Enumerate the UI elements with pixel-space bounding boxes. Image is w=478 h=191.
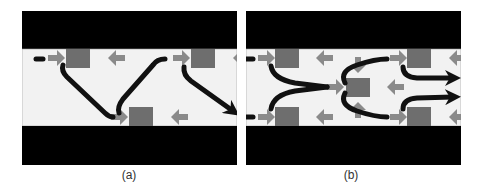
block: [275, 107, 299, 126]
block: [407, 49, 431, 68]
block: [407, 107, 431, 126]
block: [129, 107, 153, 126]
top-wall: [246, 11, 461, 49]
panel-b: [246, 11, 461, 165]
block: [275, 49, 299, 68]
block: [191, 49, 215, 68]
panel-a: [22, 11, 237, 165]
block: [66, 49, 90, 68]
caption-a: (a): [99, 168, 159, 182]
bottom-wall: [246, 126, 461, 165]
diagram-a: [22, 11, 237, 165]
caption-b: (b): [321, 168, 381, 182]
diagram-b: [246, 11, 461, 165]
top-wall: [22, 11, 237, 49]
block: [346, 78, 370, 97]
bottom-wall: [22, 126, 237, 165]
